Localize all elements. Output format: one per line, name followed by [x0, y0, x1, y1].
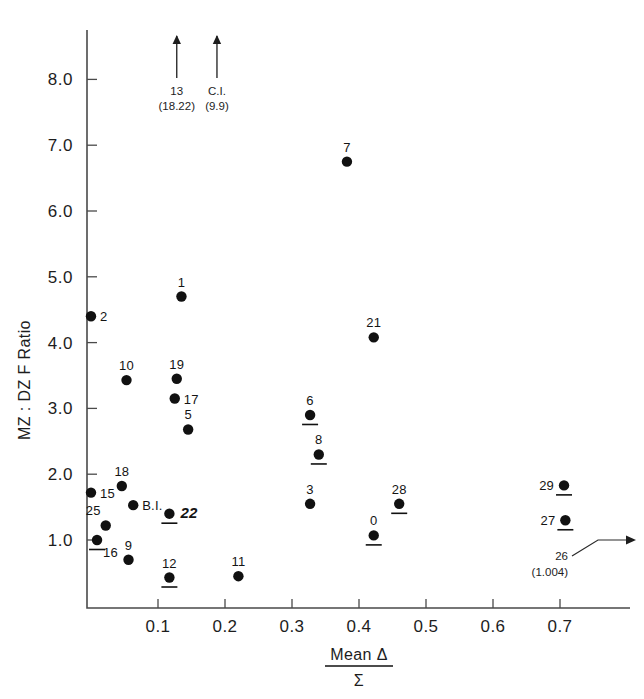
y-tick-label: 8.0 [48, 70, 73, 89]
data-point[interactable] [101, 520, 111, 530]
x-tick-label: 0.5 [413, 617, 438, 636]
x-tick-label: 0.3 [279, 617, 304, 636]
false [173, 35, 181, 44]
data-point-label: 18 [114, 464, 129, 479]
data-point[interactable] [233, 571, 243, 581]
data-point-label: 9 [125, 538, 132, 553]
data-point[interactable] [170, 393, 180, 403]
data-point[interactable] [314, 449, 324, 459]
data-point-label: 8 [315, 432, 322, 447]
false [213, 35, 221, 44]
data-point[interactable] [176, 291, 186, 301]
data-point-label: 1 [178, 275, 185, 290]
data-point[interactable] [92, 535, 102, 545]
data-point[interactable] [560, 515, 570, 525]
data-point[interactable] [117, 481, 127, 491]
x-tick-label: 0.7 [547, 617, 572, 636]
x-axis-title-denominator: Σ [354, 672, 364, 689]
x-axis-title-numerator: Mean Δ [330, 646, 388, 663]
offscale-arrow-value: (9.9) [205, 100, 229, 112]
data-point[interactable] [369, 530, 379, 540]
x-tick-label: 0.4 [346, 617, 371, 636]
figure-container: 1.02.03.04.05.06.07.08.00.10.20.30.40.50… [0, 0, 644, 699]
data-point-label: 7 [343, 140, 350, 155]
data-point[interactable] [305, 410, 315, 420]
data-point[interactable] [123, 555, 133, 565]
data-point-label: 0 [370, 513, 377, 528]
y-tick-label: 4.0 [48, 334, 73, 353]
data-point-label: 16 [103, 545, 118, 560]
data-point[interactable] [128, 500, 138, 510]
data-point-label: 10 [119, 358, 134, 373]
y-tick-label: 3.0 [48, 399, 73, 418]
data-point[interactable] [183, 424, 193, 434]
data-point-label: 21 [366, 315, 381, 330]
data-point[interactable] [86, 311, 96, 321]
false [626, 536, 636, 545]
data-point-label: 3 [306, 482, 313, 497]
offscale-arrow-value: (18.22) [159, 100, 196, 112]
data-point[interactable] [305, 499, 315, 509]
data-point-label: 2 [100, 309, 107, 324]
data-point-label: 12 [162, 556, 177, 571]
offscale-arrow-label: C.I. [208, 85, 226, 97]
data-point[interactable] [342, 156, 352, 166]
offscale-right-value: (1.004) [532, 566, 569, 578]
data-point[interactable] [559, 480, 569, 490]
data-point-label: 29 [539, 478, 554, 493]
y-tick-label: 2.0 [48, 465, 73, 484]
data-point-label: B.I. [142, 498, 162, 513]
offscale-right-leader [572, 540, 634, 556]
data-point[interactable] [172, 374, 182, 384]
data-point-label: 6 [306, 393, 313, 408]
data-point-label: 5 [184, 407, 191, 422]
y-tick-label: 7.0 [48, 136, 73, 155]
offscale-right-label: 26 [555, 550, 568, 562]
data-point[interactable] [121, 375, 131, 385]
data-point-label: 22 [179, 504, 198, 521]
data-point-label: 27 [540, 513, 555, 528]
data-point-label: 25 [86, 503, 101, 518]
y-tick-label: 6.0 [48, 202, 73, 221]
data-point-label: 19 [169, 357, 184, 372]
offscale-arrow-label: 13 [170, 85, 183, 97]
data-point-label: 15 [100, 486, 115, 501]
scatter-plot: 1.02.03.04.05.06.07.08.00.10.20.30.40.50… [0, 0, 644, 699]
data-point[interactable] [394, 499, 404, 509]
data-point-label: 11 [231, 554, 245, 569]
x-tick-label: 0.2 [212, 617, 237, 636]
data-point[interactable] [164, 508, 174, 518]
data-point-label: 28 [392, 482, 407, 497]
data-point[interactable] [164, 572, 174, 582]
y-tick-label: 5.0 [48, 268, 73, 287]
data-point-label: 17 [184, 392, 199, 407]
x-tick-label: 0.1 [145, 617, 170, 636]
y-axis-title: MZ : DZ F Ratio [16, 320, 33, 440]
data-point[interactable] [369, 332, 379, 342]
data-point[interactable] [86, 487, 96, 497]
x-tick-label: 0.6 [480, 617, 505, 636]
y-tick-label: 1.0 [48, 531, 73, 550]
